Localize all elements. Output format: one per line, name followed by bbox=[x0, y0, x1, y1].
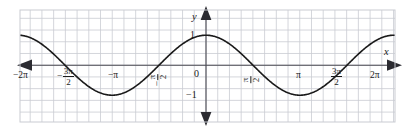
fraction-3pi-over-2: 3π 2 bbox=[63, 67, 74, 87]
fraction-numerator: 3π bbox=[331, 67, 342, 77]
graph-figure: y x 0 1 −1 −2π − 3π 2 −π − π 2 π 2 π 3π … bbox=[0, 0, 414, 133]
fraction-denominator: 2 bbox=[63, 77, 74, 87]
x-tick-label-3pi-over-2: 3π 2 bbox=[331, 67, 342, 87]
x-tick-label-pi-over-2: π 2 bbox=[241, 77, 261, 84]
x-tick-label-minus-pi-over-2: − π 2 bbox=[148, 74, 168, 86]
minus-sign: − bbox=[153, 80, 163, 86]
x-axis-label: x bbox=[384, 47, 389, 58]
axis-arrowheads bbox=[17, 6, 402, 126]
fraction-denominator: 2 bbox=[252, 77, 262, 84]
fraction-numerator: 3π bbox=[63, 67, 74, 77]
fraction-numerator: π bbox=[148, 74, 158, 81]
x-tick-label-minus-2pi: −2π bbox=[13, 71, 28, 81]
origin-label: 0 bbox=[194, 69, 199, 79]
x-tick-label-2pi: 2π bbox=[370, 71, 380, 81]
x-tick-label-minus-pi: −π bbox=[108, 71, 118, 81]
fraction-3pi-over-2: 3π 2 bbox=[331, 67, 342, 87]
fraction-denominator: 2 bbox=[158, 74, 168, 81]
fraction-numerator: π bbox=[241, 77, 251, 84]
y-axis-label: y bbox=[192, 12, 197, 23]
y-tick-label-minus-1: −1 bbox=[186, 90, 197, 100]
y-tick-label-1: 1 bbox=[190, 30, 195, 40]
fraction-pi-over-2: π 2 bbox=[148, 74, 168, 81]
arrowhead-down bbox=[201, 112, 212, 126]
x-tick-label-pi: π bbox=[296, 71, 301, 81]
fraction-pi-over-2: π 2 bbox=[241, 77, 261, 84]
arrowhead-up bbox=[201, 6, 212, 20]
x-tick-label-minus-3pi-over-2: − 3π 2 bbox=[57, 67, 74, 87]
fraction-denominator: 2 bbox=[331, 77, 342, 87]
